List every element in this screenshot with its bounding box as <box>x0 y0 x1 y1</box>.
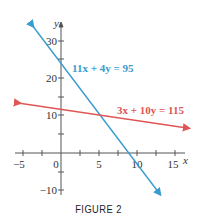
equation-label-red: 3x + 10y = 115 <box>117 104 184 116</box>
y-axis-label: y <box>53 17 59 29</box>
x-tick-label: 0 <box>53 158 59 170</box>
x-tick-label: 15 <box>168 158 180 170</box>
equation-label-blue: 11x + 4y = 95 <box>72 62 134 74</box>
x-tick-label: 5 <box>96 158 102 170</box>
x-axis-label: x <box>182 154 188 166</box>
figure-caption: FIGURE 2 <box>15 203 182 215</box>
y-tick-label: 10 <box>46 109 58 121</box>
y-tick-label: 20 <box>46 72 58 84</box>
y-tick-label: −10 <box>40 184 58 196</box>
x-tick-label: −5 <box>13 158 25 170</box>
figure-plot: −5 0 5 10 15 30 20 10 −10 y x 11x + 4y =… <box>0 0 197 224</box>
